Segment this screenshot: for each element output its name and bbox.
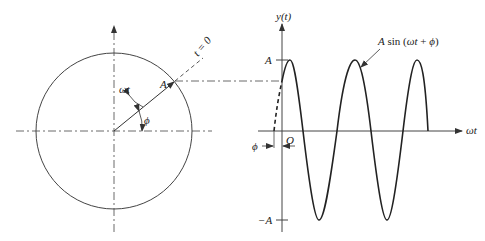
t0-label: t = 0 xyxy=(190,34,213,59)
phase-label: ϕ xyxy=(144,114,150,126)
waveform-plot: y(t) ωt O A −A A sin (ωt + ϕ) ϕ xyxy=(252,10,478,232)
y-axis-label: y(t) xyxy=(275,10,292,23)
curve-label-leader xyxy=(361,49,380,67)
amplitude-label: A xyxy=(159,78,167,90)
wt-label: ωt xyxy=(119,83,131,95)
origin-label: O xyxy=(286,134,294,146)
neg-amplitude-label: −A xyxy=(258,214,272,226)
phasor-diagram: A ωt ϕ t = 0 xyxy=(16,26,282,232)
phasor-sine-diagram: A ωt ϕ t = 0 y(t) ωt O A −A A sin (ωt + … xyxy=(0,0,485,241)
wt-rotation-arrow xyxy=(129,95,143,107)
sine-dashed-extension xyxy=(274,81,282,131)
pos-amplitude-label: A xyxy=(264,54,272,66)
reference-dashed-line xyxy=(175,58,203,81)
phase-angle-arc xyxy=(139,111,142,131)
x-axis-label: ωt xyxy=(466,124,478,136)
sine-curve xyxy=(282,60,428,220)
phi-dimension-label: ϕ xyxy=(252,140,258,152)
curve-label: A sin (ωt + ϕ) xyxy=(377,35,439,48)
